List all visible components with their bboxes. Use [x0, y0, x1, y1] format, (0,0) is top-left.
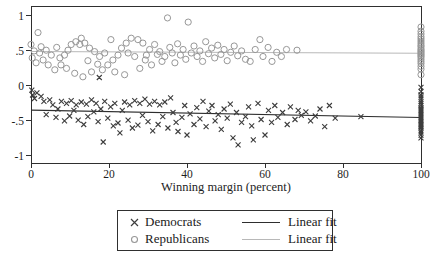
scatter-point-republican [265, 44, 271, 50]
y-tick-label: -.5 [12, 115, 25, 127]
scatter-point-republican [257, 37, 263, 43]
scatter-point-republican [43, 47, 49, 53]
scatter-point-republican [175, 41, 181, 47]
scatter-point-republican [203, 39, 209, 45]
scatter-point-republican [197, 48, 203, 54]
scatter-point-republican [215, 42, 221, 48]
dark-line-swatch [242, 222, 280, 223]
scatter-point-republican [105, 62, 111, 68]
scatter-point-republican [102, 50, 108, 56]
light-line-swatch [242, 239, 280, 240]
scatter-point-republican [88, 69, 94, 75]
scatter-point-republican [278, 53, 284, 59]
scatter-point-republican [110, 57, 116, 63]
scatter-point-republican [162, 53, 168, 59]
scatter-point-republican [164, 15, 170, 21]
scatter-point-republican [115, 52, 121, 58]
scatter-point-republican [252, 46, 258, 52]
scatter-point-republican [37, 50, 43, 56]
scatter-point-republican [260, 53, 266, 59]
scatter-figure: 0204060801001.50-.5-1Winning margin (per… [0, 0, 440, 263]
circle-marker-icon [130, 235, 145, 244]
scatter-point-republican [188, 50, 194, 56]
legend-label-republicans: Republicans [145, 232, 242, 246]
scatter-point-republican [239, 48, 245, 54]
scatter-plot: 0204060801001.50-.5-1Winning margin (per… [0, 0, 440, 200]
scatter-point-republican [191, 43, 197, 49]
scatter-point-republican [209, 45, 215, 51]
x-tick-label: 60 [259, 168, 271, 180]
x-tick-label: 40 [181, 168, 193, 180]
scatter-point-republican [212, 55, 218, 61]
scatter-point-republican [108, 37, 114, 43]
scatter-point-republican [99, 67, 105, 73]
scatter-point-republican [128, 35, 134, 41]
legend-label-linear-fit-light: Linear fit [288, 232, 337, 246]
scatter-point-republican [52, 67, 58, 73]
legend-row-republicans: Republicans Linear fit [130, 231, 332, 247]
scatter-point-republican [40, 57, 46, 63]
scatter-point-republican [183, 56, 189, 62]
x-tick-label: 100 [412, 168, 430, 180]
scatter-point-republican [132, 53, 138, 59]
scatter-point-republican [48, 52, 54, 58]
scatter-point-republican [65, 47, 71, 53]
scatter-point-republican [35, 29, 41, 35]
legend-label-linear-fit-dark: Linear fit [288, 215, 337, 229]
scatter-point-republican [112, 69, 118, 75]
y-tick-label: .5 [15, 45, 24, 57]
scatter-point-republican [224, 58, 230, 64]
plot-frame [31, 6, 421, 163]
scatter-point-republican [68, 41, 74, 47]
scatter-point-republican [200, 58, 206, 64]
scatter-point-republican [140, 40, 146, 46]
scatter-point-republican [172, 60, 178, 66]
scatter-point-republican [269, 58, 275, 64]
scatter-point-republican [54, 44, 60, 50]
scatter-point-republican [283, 46, 289, 52]
scatter-point-republican [152, 41, 158, 47]
x-tick-label: 80 [337, 168, 349, 180]
scatter-point-republican [63, 65, 69, 71]
y-tick-label: 0 [18, 80, 24, 92]
scatter-point-republican [185, 19, 191, 25]
x-marker-icon [130, 218, 145, 227]
legend-label-democrats: Democrats [145, 215, 242, 229]
scatter-point-republican [57, 55, 63, 61]
x-tick-label: 20 [103, 168, 115, 180]
scatter-point-republican [80, 74, 86, 80]
scatter-point-republican [95, 61, 101, 67]
y-tick-label: -1 [14, 150, 24, 162]
x-axis-title: Winning margin (percent) [161, 180, 291, 194]
scatter-point-republican [231, 43, 237, 49]
y-tick-label: 1 [18, 10, 24, 22]
scatter-point-republican [72, 70, 78, 76]
scatter-point-republican [122, 72, 128, 78]
scatter-point-republican [169, 50, 175, 56]
legend: Democrats Linear fit Republicans Linear … [117, 210, 333, 251]
scatter-point-republican [137, 65, 143, 71]
scatter-point-republican [85, 58, 91, 64]
scatter-point-republican [118, 45, 124, 51]
scatter-point-republican [45, 62, 51, 68]
scatter-point-republican [148, 62, 154, 68]
legend-row-democrats: Democrats Linear fit [130, 214, 332, 230]
scatter-point-republican [123, 40, 129, 46]
scatter-point-republican [33, 60, 39, 66]
x-tick-label: 0 [28, 168, 34, 180]
scatter-point-republican [180, 46, 186, 52]
scatter-point-republican [125, 50, 131, 56]
scatter-point-republican [221, 46, 227, 52]
